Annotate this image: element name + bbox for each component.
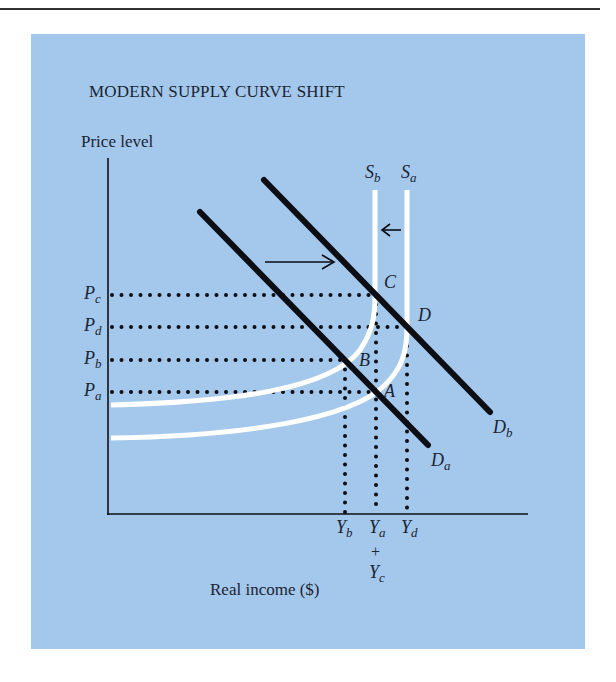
income-label-yb: Yb [336, 517, 353, 541]
label-da: Da [431, 450, 451, 474]
point-label-d: D [418, 305, 431, 326]
income-label-yc: Yc [369, 562, 385, 586]
price-label-pb: Pb [84, 348, 102, 372]
demand-shift-arrow [265, 255, 334, 269]
point-label-a: A [384, 381, 395, 402]
point-label-c: C [384, 272, 396, 293]
figure-title: MODERN SUPPLY CURVE SHIFT [89, 82, 345, 102]
label-db: Db [493, 417, 513, 441]
income-label-ya: Ya [369, 517, 386, 541]
price-label-pa: Pa [84, 380, 102, 404]
supply-curve-sa [111, 190, 407, 438]
income-label-yd: Yd [401, 517, 418, 541]
label-sb: Sb [365, 162, 381, 186]
y-axis-label: Price level [81, 132, 153, 152]
label-sa: Sa [401, 162, 417, 186]
price-label-pc: Pc [84, 283, 101, 307]
point-label-b: B [359, 350, 370, 371]
supply-shift-arrow [382, 224, 401, 236]
plus-sign: + [371, 543, 380, 561]
x-axis-label: Real income ($) [210, 580, 320, 600]
price-label-pd: Pd [84, 315, 102, 339]
supply-curve-sb [111, 190, 375, 405]
